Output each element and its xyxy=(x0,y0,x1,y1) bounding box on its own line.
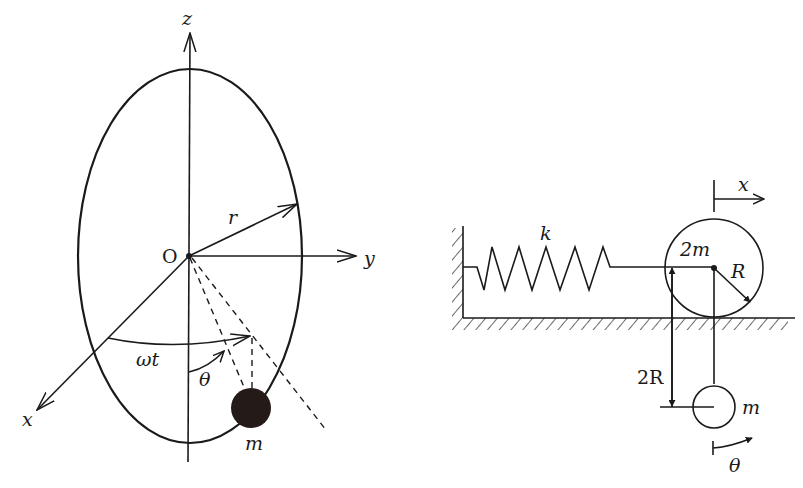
rotating-hoop-figure: z y x O r ωt θ m xyxy=(22,7,375,462)
spring-disk-pendulum-figure: k 2m R x m 2R θ xyxy=(452,173,795,476)
z-axis xyxy=(188,33,190,462)
pendulum-length-label: 2R xyxy=(637,366,664,388)
theta-label: θ xyxy=(199,368,211,390)
z-axis-label: z xyxy=(181,7,193,29)
diagram-canvas: z y x O r ωt θ m k xyxy=(0,0,803,488)
spring xyxy=(463,247,714,290)
x-axis xyxy=(37,256,189,410)
bead-mass-label: m xyxy=(245,432,263,454)
disk-mass-label: 2m xyxy=(679,238,710,260)
spring-constant-label: k xyxy=(540,222,552,244)
disk-radius-label: R xyxy=(730,260,745,282)
x-axis-label: x xyxy=(22,408,33,430)
pendulum-mass-label: m xyxy=(742,396,760,418)
y-axis-label: y xyxy=(363,247,375,269)
radius-label: r xyxy=(228,206,239,228)
radius-vector xyxy=(189,204,297,256)
wall-hatching xyxy=(452,228,463,318)
theta-swing-arrow xyxy=(713,438,752,448)
displacement-label: x xyxy=(738,173,749,195)
ground-hatching xyxy=(452,318,788,330)
pendulum-angle-label: θ xyxy=(729,454,741,476)
omega-t-label: ωt xyxy=(136,348,159,370)
bead-mass xyxy=(231,388,271,428)
omega-t-arc xyxy=(108,336,250,345)
origin-label: O xyxy=(162,245,178,267)
